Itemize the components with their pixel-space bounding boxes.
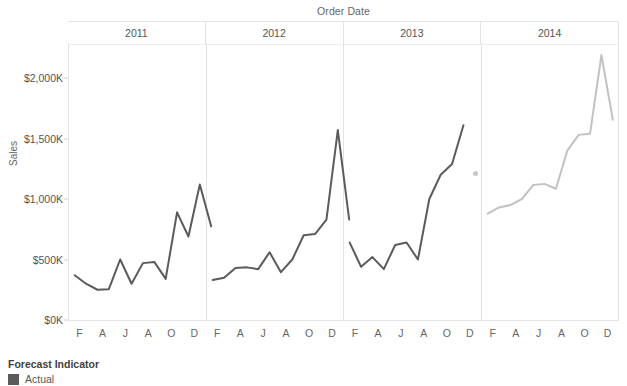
- series-line-2011: [75, 184, 212, 289]
- x-tick-group-2012: FAJAOD: [206, 321, 344, 345]
- x-tick-label-2012-A-3: A: [275, 321, 298, 345]
- legend-label-actual: Actual: [25, 373, 54, 385]
- year-header-2012: 2012: [206, 22, 344, 44]
- x-tick-label-2013-F-0: F: [344, 321, 367, 345]
- x-tick-label-2011-A-1: A: [91, 321, 114, 345]
- panel-2012: [207, 43, 345, 320]
- line-2011: [69, 43, 206, 320]
- panel-2011: [69, 43, 207, 320]
- x-tick-label-2011-F-0: F: [68, 321, 91, 345]
- y-tick-label-4: $2,000K: [3, 72, 63, 84]
- year-header-2011: 2011: [68, 22, 206, 44]
- plot-area: [68, 43, 619, 320]
- x-tick-label-2014-J-2: J: [527, 321, 550, 345]
- x-tick-label-2014-O-4: O: [573, 321, 596, 345]
- x-tick-label-2013-A-3: A: [412, 321, 435, 345]
- x-tick-label-2012-F-0: F: [206, 321, 229, 345]
- x-tick-label-2011-J-2: J: [114, 321, 137, 345]
- x-tick-group-2014: FAJAOD: [481, 321, 619, 345]
- x-tick-label-2011-O-4: O: [160, 321, 183, 345]
- y-tick-label-3: $1,500K: [3, 133, 63, 145]
- x-tick-label-2014-F-0: F: [481, 321, 504, 345]
- year-header-2013: 2013: [344, 22, 482, 44]
- y-tick-label-1: $500K: [3, 254, 63, 266]
- panel-2014: [482, 43, 620, 320]
- x-tick-label-2011-A-3: A: [137, 321, 160, 345]
- x-tick-label-2012-D-5: D: [321, 321, 344, 345]
- y-axis-ticks: $0K$500K$1,000K$1,500K$2,000K: [0, 0, 63, 386]
- x-tick-label-2012-J-2: J: [252, 321, 275, 345]
- x-axis-tick-band: FAJAODFAJAODFAJAODFAJAOD: [68, 320, 619, 345]
- x-axis-title: Order Date: [68, 5, 619, 17]
- x-tick-label-2011-D-5: D: [183, 321, 206, 345]
- legend-item-actual[interactable]: Actual: [8, 373, 99, 385]
- x-tick-label-2014-D-5: D: [596, 321, 619, 345]
- x-tick-label-2013-A-1: A: [366, 321, 389, 345]
- x-tick-label-2014-A-1: A: [504, 321, 527, 345]
- x-tick-label-2014-A-3: A: [550, 321, 573, 345]
- series-line-2012: [212, 130, 349, 280]
- legend-swatch-actual: [8, 374, 19, 385]
- legend-title: Forecast Indicator: [8, 358, 99, 370]
- x-tick-label-2013-J-2: J: [389, 321, 412, 345]
- x-tick-group-2013: FAJAOD: [344, 321, 482, 345]
- x-tick-group-2011: FAJAOD: [68, 321, 206, 345]
- year-header-band: 2011 2012 2013 2014: [68, 21, 619, 45]
- legend: Forecast Indicator Actual: [8, 358, 99, 385]
- x-tick-label-2012-O-4: O: [298, 321, 321, 345]
- line-2012: [207, 43, 344, 320]
- line-2013: [344, 43, 481, 320]
- series-line-2013: [350, 125, 464, 269]
- y-tick-label-2: $1,000K: [3, 193, 63, 205]
- year-header-2014: 2014: [481, 22, 619, 44]
- series-line-2014: [487, 55, 612, 214]
- x-tick-label-2012-A-1: A: [229, 321, 252, 345]
- y-tick-label-0: $0K: [3, 314, 63, 326]
- panel-2013: [344, 43, 482, 320]
- x-tick-label-2013-D-5: D: [458, 321, 481, 345]
- chart-root: Order Date 2011 2012 2013 2014 Sales $0K…: [0, 0, 627, 386]
- line-2014: [482, 43, 619, 320]
- x-tick-label-2013-O-4: O: [435, 321, 458, 345]
